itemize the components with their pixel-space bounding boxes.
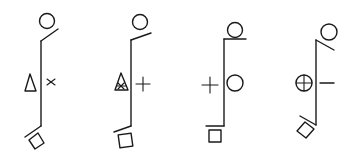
plus-icon [202, 77, 218, 93]
figure-3 [202, 23, 246, 143]
bottom-square-icon [297, 122, 314, 138]
top-circle-icon [40, 14, 55, 29]
bottom-square-icon [29, 133, 44, 149]
bottom-square-icon [118, 133, 133, 148]
top-circle-icon [321, 24, 337, 40]
bottom-bar [114, 126, 131, 132]
cross-x-icon [47, 79, 55, 85]
plus-icon [136, 77, 150, 91]
top-bar [316, 40, 334, 50]
figure-1 [25, 14, 58, 150]
diagram-svg [0, 0, 353, 158]
hatched-triangle-icon [115, 73, 128, 90]
top-circle-icon [133, 15, 148, 30]
diagram-canvas [0, 0, 353, 158]
top-bar [41, 29, 58, 41]
side-circle-icon [227, 75, 243, 91]
triangle-icon [25, 74, 36, 91]
figure-4 [296, 24, 337, 138]
top-circle-icon [228, 23, 243, 38]
circled-plus-icon [296, 75, 312, 91]
figure-2 [114, 15, 151, 148]
top-bar [131, 33, 151, 40]
bottom-square-icon [209, 130, 221, 142]
